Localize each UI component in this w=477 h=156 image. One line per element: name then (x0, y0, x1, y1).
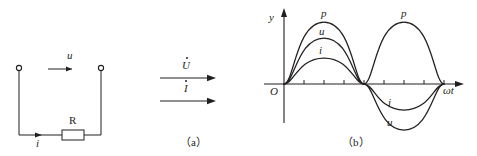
figure-root: u i R U I （a） (0, 0, 477, 156)
curve-power-p (284, 22, 444, 84)
curve-label-p-first: p (321, 8, 327, 19)
voltage-phasor-arrow-head-icon (207, 75, 216, 81)
resistor-symbol (62, 130, 84, 140)
y-axis-arrow-head-icon (281, 8, 287, 17)
curve-label-u-second: u (387, 117, 393, 128)
panel-circuit-and-phasor: u i R U I （a） (0, 0, 240, 156)
resistor-label-R: R (69, 115, 76, 126)
curve-label-p-second: p (401, 8, 407, 19)
terminal-right-icon (98, 65, 103, 70)
voltage-label-u: u (67, 50, 73, 61)
origin-label: O (270, 86, 278, 97)
caption-a: （a） (180, 133, 207, 149)
current-phasor-letter: I (184, 83, 188, 94)
current-phasor-arrow-head-icon (207, 98, 216, 104)
voltage-phasor-letter: U (182, 60, 190, 71)
current-phasor-label: I (184, 83, 188, 94)
terminal-left-icon (16, 65, 21, 70)
y-axis-label: y (269, 12, 274, 23)
curve-label-u-first: u (319, 26, 325, 37)
x-axis-arrow-head-icon (455, 81, 464, 87)
voltage-phasor-label: U (182, 60, 190, 71)
caption-b: （b） (342, 133, 370, 149)
x-axis-label: ωt (443, 85, 454, 96)
x-axis-ticks (304, 80, 444, 84)
panel-waveform: y O ωt p u i p i u （b） (240, 0, 477, 156)
current-label-i: i (36, 138, 39, 149)
voltage-arrow-head-icon (66, 67, 72, 72)
curve-label-i-second: i (388, 97, 391, 108)
curve-label-i-first: i (319, 45, 322, 56)
